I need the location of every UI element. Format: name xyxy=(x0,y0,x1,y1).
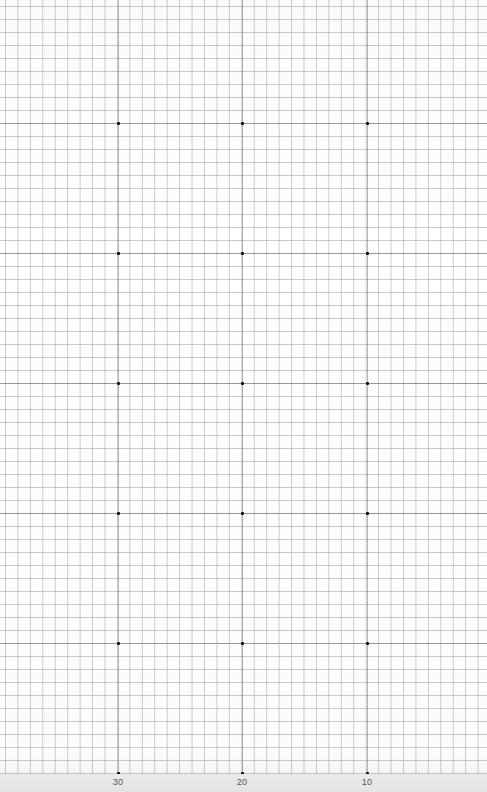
major-vertical-line xyxy=(367,0,368,774)
dot-marker xyxy=(241,122,244,125)
dot-marker xyxy=(241,642,244,645)
grid xyxy=(0,0,487,774)
dot-marker xyxy=(117,382,120,385)
dot-marker xyxy=(117,642,120,645)
dot-marker xyxy=(366,252,369,255)
dot-marker xyxy=(366,382,369,385)
dot-marker xyxy=(241,252,244,255)
dot-marker xyxy=(117,512,120,515)
dot-marker xyxy=(117,252,120,255)
major-vertical-line xyxy=(118,0,119,774)
scale-label-30: 30 xyxy=(113,777,123,787)
dot-marker xyxy=(241,512,244,515)
graph-paper-sheet: 30 20 10 xyxy=(0,0,487,792)
scale-label-20: 20 xyxy=(237,777,247,787)
scale-label-10: 10 xyxy=(362,777,372,787)
dot-marker xyxy=(366,512,369,515)
dot-marker xyxy=(366,122,369,125)
dot-marker xyxy=(241,382,244,385)
major-vertical-line xyxy=(242,0,243,774)
dot-marker xyxy=(117,122,120,125)
dot-marker xyxy=(366,642,369,645)
